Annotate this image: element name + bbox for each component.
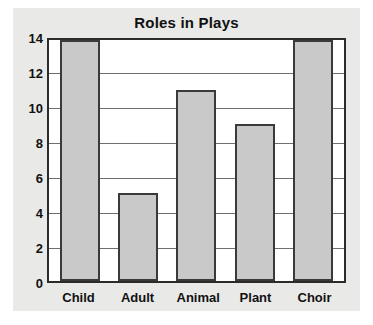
bar-animal[interactable] — [176, 90, 216, 281]
chart-figure: Roles in Plays 02468101214 ChildAdultAni… — [13, 8, 360, 311]
bar-choir[interactable] — [293, 40, 333, 281]
y-axis-tick-2: 2 — [13, 241, 43, 256]
y-axis-tick-8: 8 — [13, 136, 43, 151]
x-axis-tick-labels: ChildAdultAnimalPlantChoir — [47, 286, 346, 308]
y-axis-tick-4: 4 — [13, 206, 43, 221]
bar-plant[interactable] — [235, 124, 275, 281]
y-axis-tick-labels: 02468101214 — [13, 38, 43, 283]
bar-adult[interactable] — [118, 193, 158, 281]
x-axis-tick-child: Child — [59, 290, 99, 305]
y-axis-tick-0: 0 — [13, 276, 43, 291]
y-axis-tick-12: 12 — [13, 66, 43, 81]
x-axis-tick-plant: Plant — [236, 290, 276, 305]
x-axis-tick-choir: Choir — [295, 290, 335, 305]
y-axis-tick-6: 6 — [13, 171, 43, 186]
x-axis-tick-animal: Animal — [177, 290, 217, 305]
chart-title: Roles in Plays — [13, 14, 360, 31]
x-axis-tick-adult: Adult — [118, 290, 158, 305]
plot-area — [47, 38, 346, 283]
y-axis-tick-10: 10 — [13, 101, 43, 116]
bar-child[interactable] — [60, 40, 100, 281]
y-axis-tick-14: 14 — [13, 31, 43, 46]
bars-container — [49, 40, 344, 281]
